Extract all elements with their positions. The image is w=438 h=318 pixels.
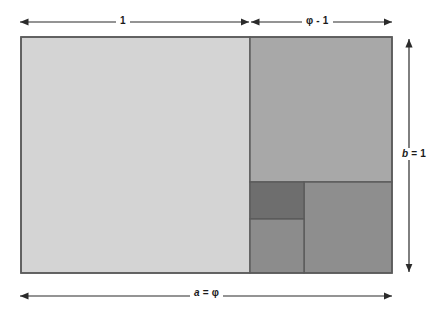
small-dark-square-region — [250, 182, 304, 219]
phi-minus-one-square-region — [250, 37, 392, 182]
dimension-label-bottom-value: = φ — [200, 287, 219, 298]
golden-ratio-diagram: 1 φ - 1 b = 1 a = φ — [0, 0, 438, 318]
bottom-right-square-region — [304, 182, 392, 273]
dimension-label-right: b = 1 — [398, 148, 430, 160]
dimension-label-top-right: φ - 1 — [302, 15, 333, 27]
unit-square-region — [21, 37, 250, 273]
diagram-canvas — [0, 0, 438, 318]
dimension-label-bottom: a = φ — [190, 287, 223, 299]
dimension-label-right-value: = 1 — [408, 148, 426, 159]
dimension-label-top-left: 1 — [116, 15, 130, 27]
small-mid-square-region — [250, 219, 304, 273]
